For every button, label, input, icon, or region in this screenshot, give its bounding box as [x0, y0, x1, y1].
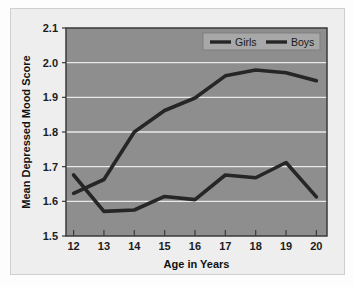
y-tick-labels: 1.51.61.71.81.92.02.1	[43, 22, 58, 242]
x-tick-label: 12	[67, 240, 79, 252]
y-tick-label: 2.0	[43, 57, 58, 69]
chart-legend: Girls Boys	[203, 33, 320, 50]
legend-label-boys: Boys	[291, 36, 314, 48]
x-tick-labels: 121314151617181920	[67, 240, 322, 252]
y-tick-label: 1.7	[43, 161, 58, 173]
y-axis-title: Mean Depressed Mood Score	[20, 55, 32, 208]
x-tick-label: 17	[219, 240, 231, 252]
x-tick-label: 16	[189, 240, 201, 252]
x-tick-label: 18	[250, 240, 262, 252]
y-tick-label: 1.5	[43, 230, 58, 242]
x-axis-title: Age in Years	[164, 258, 230, 270]
legend-label-girls: Girls	[235, 36, 257, 48]
x-tick-label: 13	[98, 240, 110, 252]
y-tick-label: 1.8	[43, 126, 58, 138]
chart-figure: 1.51.61.71.81.92.02.1 121314151617181920…	[0, 0, 354, 287]
y-tick-label: 2.1	[43, 22, 58, 34]
x-tick-label: 19	[280, 240, 292, 252]
y-tick-label: 1.6	[43, 195, 58, 207]
y-tick-label: 1.9	[43, 91, 58, 103]
line-chart: 1.51.61.71.81.92.02.1 121314151617181920…	[0, 0, 354, 287]
x-tick-label: 20	[310, 240, 322, 252]
x-tick-label: 14	[128, 240, 141, 252]
x-tick-label: 15	[159, 240, 171, 252]
